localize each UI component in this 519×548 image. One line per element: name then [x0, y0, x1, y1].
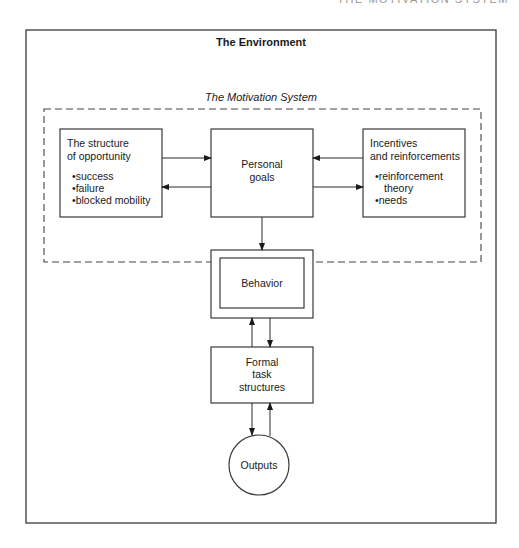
- behavior-label: Behavior: [241, 277, 283, 289]
- outputs-label: Outputs: [241, 459, 278, 471]
- opportunity-title-line: The structure: [67, 137, 129, 149]
- motivation-diagram: The Environment The Motivation System Th…: [0, 0, 519, 548]
- opportunity-bullet: •blocked mobility: [72, 194, 151, 206]
- opportunity-box: The structure of opportunity •success •f…: [60, 129, 162, 217]
- behavior-box: Behavior: [211, 250, 313, 318]
- incentives-bullet: •needs: [375, 194, 407, 206]
- personal-goals-box: Personal goals: [211, 129, 313, 217]
- opportunity-bullet: •failure: [72, 182, 104, 194]
- incentives-box: Incentives and reinforcements •reinforce…: [363, 129, 465, 217]
- opportunity-bullet: •success: [72, 170, 114, 182]
- goals-line: goals: [249, 171, 274, 183]
- formal-task-box: Formal task structures: [211, 347, 313, 403]
- outputs-node: Outputs: [229, 435, 289, 495]
- incentives-bullet: theory: [384, 182, 414, 194]
- environment-title: The Environment: [216, 36, 306, 48]
- incentives-title-line: and reinforcements: [370, 150, 460, 162]
- incentives-title-line: Incentives: [370, 137, 417, 149]
- formal-task-line: structures: [239, 381, 285, 393]
- motivation-system-title: The Motivation System: [205, 91, 317, 103]
- formal-task-line: task: [252, 368, 272, 380]
- incentives-bullet: •reinforcement: [375, 170, 443, 182]
- goals-line: Personal: [241, 158, 282, 170]
- formal-task-line: Formal: [246, 356, 279, 368]
- opportunity-title-line: of opportunity: [67, 150, 131, 162]
